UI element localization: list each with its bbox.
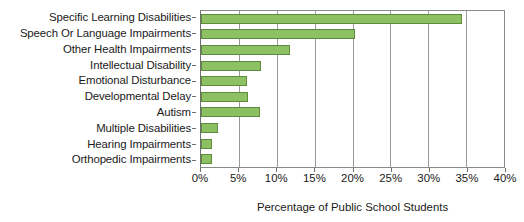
category-label: Developmental Delay <box>0 89 196 105</box>
bar <box>201 139 212 149</box>
bar-chart: Specific Learning DisabilitiesSpeech Or … <box>0 0 524 222</box>
bar <box>201 76 247 86</box>
category-tick-mark <box>192 112 196 113</box>
category-tick-mark <box>192 96 196 97</box>
category-label: Speech Or Language Impairments <box>0 26 196 42</box>
value-tick-label: 40% <box>494 173 517 184</box>
category-label: Intellectual Disability <box>0 57 196 73</box>
bar-row <box>201 105 504 121</box>
category-label: Emotional Disturbance <box>0 73 196 89</box>
category-label: Hearing Impairments <box>0 136 196 152</box>
bar <box>201 14 462 24</box>
category-tick-mark <box>192 65 196 66</box>
value-tick-label: 20% <box>341 173 364 184</box>
bar <box>201 123 218 133</box>
category-label-text: Other Health Impairments <box>63 44 191 55</box>
category-label-text: Autism <box>157 107 191 118</box>
x-axis-title: Percentage of Public School Students <box>200 202 505 213</box>
category-label: Orthopedic Impairments <box>0 152 196 168</box>
category-tick-mark <box>192 17 196 18</box>
category-label: Multiple Disabilities <box>0 121 196 137</box>
bar-row <box>201 27 504 43</box>
bar-row <box>201 89 504 105</box>
value-axis: 0%5%10%15%20%25%30%35%40% <box>200 168 505 188</box>
value-tick-label: 30% <box>417 173 440 184</box>
bar-row <box>201 11 504 27</box>
category-tick-mark <box>192 33 196 34</box>
bar-row <box>201 73 504 89</box>
bar <box>201 29 355 39</box>
category-tick-mark <box>192 81 196 82</box>
category-tick-mark <box>192 128 196 129</box>
bar <box>201 107 260 117</box>
category-label-text: Speech Or Language Impairments <box>20 28 191 39</box>
category-label-text: Developmental Delay <box>85 91 191 102</box>
bar <box>201 61 261 71</box>
category-label-text: Multiple Disabilities <box>96 123 191 134</box>
category-axis: Specific Learning DisabilitiesSpeech Or … <box>0 10 196 168</box>
bar <box>201 154 212 164</box>
value-tick-label: 0% <box>192 173 208 184</box>
plot-area <box>200 10 505 168</box>
value-tick-label: 35% <box>455 173 478 184</box>
value-tick-label: 10% <box>265 173 288 184</box>
category-label: Other Health Impairments <box>0 42 196 58</box>
category-label-text: Specific Learning Disabilities <box>49 12 191 23</box>
bar <box>201 45 290 55</box>
category-label: Specific Learning Disabilities <box>0 10 196 26</box>
value-tick-label: 25% <box>379 173 402 184</box>
bars-layer <box>201 11 504 167</box>
category-label-text: Emotional Disturbance <box>79 75 192 86</box>
category-label-text: Orthopedic Impairments <box>72 154 191 165</box>
value-tick-label: 15% <box>303 173 326 184</box>
bar <box>201 92 248 102</box>
category-tick-mark <box>192 144 196 145</box>
category-label-text: Hearing Impairments <box>87 139 191 150</box>
value-tick-label: 5% <box>230 173 246 184</box>
category-tick-mark <box>192 49 196 50</box>
bar-row <box>201 151 504 167</box>
bar-row <box>201 120 504 136</box>
category-label-text: Intellectual Disability <box>90 60 191 71</box>
category-tick-mark <box>192 160 196 161</box>
category-label: Autism <box>0 105 196 121</box>
bar-row <box>201 42 504 58</box>
bar-row <box>201 136 504 152</box>
bar-row <box>201 58 504 74</box>
